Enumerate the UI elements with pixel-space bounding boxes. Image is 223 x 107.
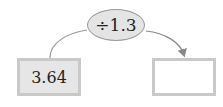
operation-label: ÷1.3 bbox=[95, 15, 136, 35]
input-connector bbox=[50, 30, 87, 58]
output-arrow-icon bbox=[146, 31, 184, 55]
operation-node: ÷1.3 bbox=[87, 9, 145, 41]
input-value: 3.64 bbox=[31, 68, 67, 87]
answer-box[interactable] bbox=[152, 58, 216, 96]
input-box: 3.64 bbox=[17, 58, 81, 96]
